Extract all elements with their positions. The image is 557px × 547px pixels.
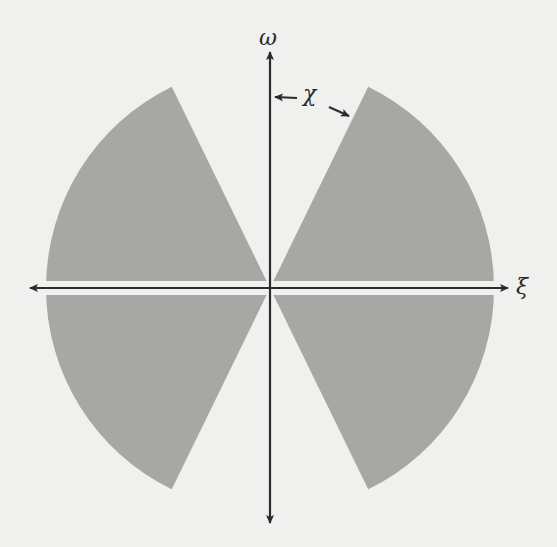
figure-canvas: ω ξ χ [0,0,557,547]
upper-right-wedge [270,87,494,288]
xi-axis-label: ξ [516,276,528,298]
upper-left-wedge [46,87,270,288]
lower-left-wedge [46,288,270,489]
chi-annotation-label: χ [303,83,316,105]
chi-arrow-to-axis [275,97,297,98]
omega-axis-label: ω [259,27,277,49]
lower-right-wedge [270,288,494,489]
chi-arrow-to-wedge [329,107,349,116]
double-cone-diagram [0,0,557,547]
